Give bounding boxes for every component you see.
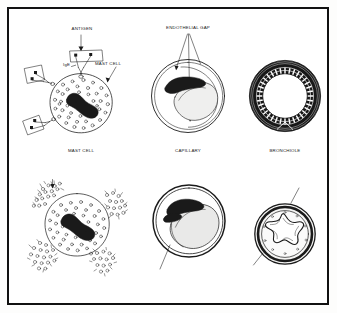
label-ige: IgE [63,62,75,67]
capillary-normal-drawing [137,9,239,161]
panel-bronchiole-constricted: SMOOTH MUSCLE CONTRACTS EDEMA [239,161,331,307]
illustration-figure: ANTIGEN IgE MAST CELL MAST CELL [0,0,337,313]
label-mast-cell-pointer: MAST CELL [95,61,135,66]
mast-cell-degranulating-drawing [9,161,137,307]
panel-mast-cell-degranulating: VASOACTIVE AMINES [9,161,137,307]
caption-bronchiole: BRONCHIOLE [258,148,312,153]
caption-mast-cell: MAST CELL [57,148,105,153]
figure-border: ANTIGEN IgE MAST CELL MAST CELL [7,7,329,305]
caption-capillary: CAPILLARY [163,148,213,153]
label-antigen: ANTIGEN [63,26,101,31]
label-endothelial-gap: ENDOTHELIAL GAP [154,25,222,30]
capillary-leaking-drawing [137,161,239,307]
panel-mast-cell-resting: ANTIGEN IgE MAST CELL MAST CELL [9,9,137,161]
bronchiole-normal-drawing [239,9,331,161]
mast-cell-resting-drawing [9,9,137,161]
panel-bronchiole-normal: BRONCHIOLE [239,9,331,161]
panel-capillary-leaking: LEAKAGE OF PLASMA THROUGH ENDOTHELIAL GA… [137,161,239,307]
bronchiole-constricted-drawing [239,161,331,307]
panel-capillary-normal: ENDOTHELIAL GAP CAPILLARY [137,9,239,161]
